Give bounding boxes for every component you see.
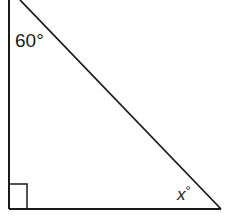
hypotenuse — [20, 0, 221, 209]
right-triangle-diagram: 60° x° — [0, 0, 225, 218]
bottom-right-angle-label: x° — [176, 183, 191, 204]
degree-symbol: ° — [186, 183, 191, 198]
angle-variable: x — [176, 185, 186, 204]
right-angle-marker — [9, 184, 27, 209]
top-angle-label: 60° — [15, 30, 44, 51]
